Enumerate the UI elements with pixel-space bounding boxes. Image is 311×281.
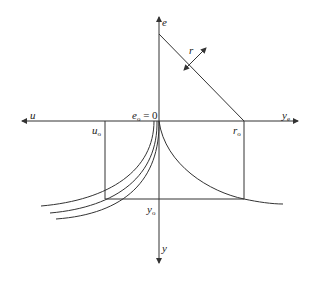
u-axis-label: u [30, 109, 36, 121]
right-curve [159, 121, 283, 204]
y0-label: yo [146, 203, 156, 217]
e-r-line [159, 34, 244, 121]
diagram: e u ye y eo = 0 uo ro yo r [0, 0, 311, 281]
r0-label: ro [233, 124, 241, 138]
e-axis-label: e [162, 16, 167, 28]
y-axis-label: y [161, 242, 167, 254]
r-label: r [189, 44, 194, 56]
ye-axis-label: ye [281, 109, 290, 123]
r-arrow-up [195, 48, 206, 59]
u0-label: uo [92, 124, 102, 138]
origin-label: eo = 0 [132, 109, 158, 123]
